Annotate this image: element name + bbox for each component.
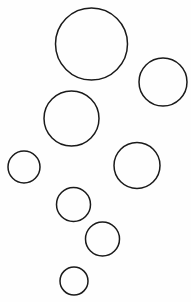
circle-cluster-drawing: [0, 0, 191, 302]
figure-canvas: [0, 0, 191, 302]
